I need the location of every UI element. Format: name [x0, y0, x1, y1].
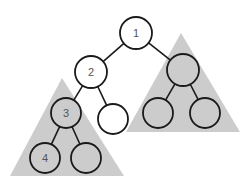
tree-node-nRL [143, 98, 173, 128]
tree-node-nRR [190, 98, 220, 128]
node-label: 4 [42, 152, 48, 164]
tree-node-nR [167, 54, 199, 86]
edge-n2-n3 [74, 86, 83, 101]
edge-n1-nR [149, 43, 171, 60]
node-label: 3 [63, 107, 69, 119]
node-label: 2 [88, 66, 94, 78]
edge-n2-n2r [98, 86, 107, 105]
edge-n1-n2 [103, 43, 124, 61]
node-label: 1 [133, 27, 139, 39]
tree-diagram: 1234 [0, 0, 249, 190]
tree-node-n3r [71, 143, 101, 173]
tree-node-n2r [98, 104, 128, 134]
